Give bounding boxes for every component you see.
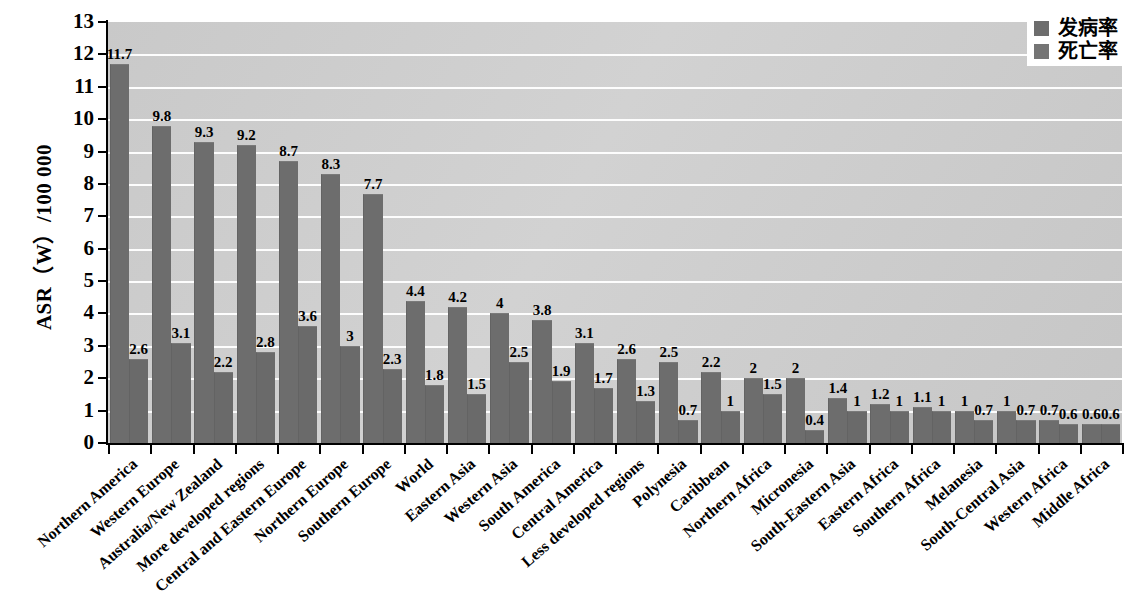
bar[interactable] (721, 411, 740, 443)
y-tick-label: 10 (54, 108, 94, 129)
x-tick (319, 445, 321, 454)
gridline (108, 313, 1122, 315)
x-tick (277, 445, 279, 454)
legend-item-incidence[interactable]: 发病率 (1034, 18, 1118, 38)
bar-value-label: 2.8 (252, 335, 279, 350)
bar[interactable] (152, 126, 171, 443)
x-tick (1080, 445, 1082, 454)
bar-value-label: 2.6 (613, 342, 640, 357)
bar-value-label: 7.7 (359, 177, 386, 192)
y-tick-label: 11 (54, 76, 94, 97)
y-tick-label: 13 (54, 11, 94, 32)
bar-value-label: 3.1 (571, 326, 598, 341)
y-tick (98, 345, 107, 347)
bar-value-label: 3.8 (528, 303, 555, 318)
x-tick (362, 445, 364, 454)
bar[interactable] (805, 430, 824, 443)
bar[interactable] (383, 369, 402, 443)
bar[interactable] (870, 404, 889, 443)
y-tick-label: 6 (54, 238, 94, 259)
bar-value-label: 9.3 (190, 125, 217, 140)
x-tick (488, 445, 490, 454)
bar-value-label: 0.6 (1097, 407, 1124, 422)
legend-item-mortality[interactable]: 死亡率 (1034, 41, 1118, 61)
bar[interactable] (214, 372, 233, 443)
bar-value-label: 1.7 (590, 371, 617, 386)
x-tick (826, 445, 828, 454)
bar[interactable] (1016, 420, 1035, 443)
bar[interactable] (279, 161, 298, 443)
y-tick-label: 3 (54, 335, 94, 356)
bar[interactable] (129, 359, 148, 443)
bar[interactable] (552, 381, 571, 443)
bar[interactable] (467, 394, 486, 443)
bar[interactable] (509, 362, 528, 443)
bar-value-label: 1.3 (632, 384, 659, 399)
bar[interactable] (532, 320, 551, 443)
bar[interactable] (340, 346, 359, 443)
legend: 发病率 死亡率 (1027, 14, 1126, 66)
legend-label-incidence: 发病率 (1058, 18, 1118, 38)
bar[interactable] (237, 145, 256, 443)
bar[interactable] (1059, 424, 1078, 443)
bar[interactable] (594, 388, 613, 443)
y-tick-label: 0 (54, 432, 94, 453)
bar[interactable] (298, 326, 317, 443)
bar[interactable] (786, 378, 805, 443)
bar-value-label: 0.4 (801, 413, 828, 428)
bar[interactable] (194, 142, 213, 443)
bar-value-label: 4 (486, 296, 513, 311)
bar-value-label: 1.5 (759, 377, 786, 392)
bar[interactable] (636, 401, 655, 443)
bar[interactable] (448, 307, 467, 443)
x-tick (615, 445, 617, 454)
gridline (108, 281, 1122, 283)
bar[interactable] (678, 420, 697, 443)
bar[interactable] (171, 343, 190, 443)
x-tick (1038, 445, 1040, 454)
y-tick-label: 12 (54, 43, 94, 64)
x-tick (446, 445, 448, 454)
y-tick-label: 4 (54, 302, 94, 323)
bar-value-label: 2.6 (125, 342, 152, 357)
y-tick (98, 377, 107, 379)
bar-value-label: 4.4 (402, 284, 429, 299)
bar[interactable] (763, 394, 782, 443)
y-tick (98, 118, 107, 120)
bar[interactable] (847, 411, 866, 443)
bar-chart: ASR（W）/100 000 012345678910111213 11.72.… (0, 0, 1134, 603)
bar[interactable] (890, 411, 909, 443)
legend-swatch-incidence (1034, 21, 1049, 36)
y-tick (98, 151, 107, 153)
bar[interactable] (1082, 424, 1101, 443)
bar[interactable] (256, 352, 275, 443)
bar-value-label: 2 (740, 361, 767, 376)
bar[interactable] (932, 411, 951, 443)
bar[interactable] (110, 64, 129, 443)
x-tick (193, 445, 195, 454)
x-tick (150, 445, 152, 454)
bar[interactable] (617, 359, 636, 443)
bar-value-label: 1 (717, 394, 744, 409)
bar-value-label: 9.2 (233, 128, 260, 143)
bar[interactable] (363, 194, 382, 443)
bar[interactable] (1039, 420, 1058, 443)
x-tick (700, 445, 702, 454)
y-tick-label: 2 (54, 367, 94, 388)
x-tick (108, 445, 110, 454)
gridline (108, 54, 1122, 56)
bar[interactable] (974, 420, 993, 443)
x-tick (784, 445, 786, 454)
bar[interactable] (490, 313, 509, 443)
bar[interactable] (913, 407, 932, 443)
y-tick (98, 21, 107, 23)
x-tick (742, 445, 744, 454)
legend-swatch-mortality (1034, 44, 1049, 59)
gridline (108, 119, 1122, 121)
y-tick (98, 410, 107, 412)
bar[interactable] (1101, 424, 1120, 443)
bar[interactable] (575, 343, 594, 443)
x-tick (404, 445, 406, 454)
bar[interactable] (425, 385, 444, 443)
bar[interactable] (321, 174, 340, 443)
